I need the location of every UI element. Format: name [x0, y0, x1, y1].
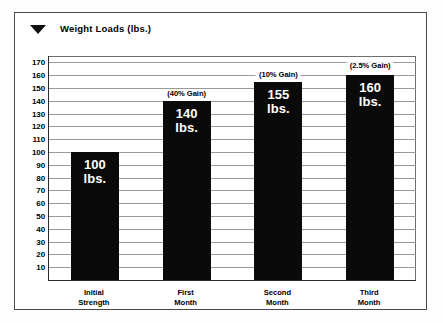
- bar: 155lbs.: [254, 82, 302, 280]
- bar-value-number: 100: [84, 157, 106, 172]
- y-axis-tick-label: 110: [32, 136, 45, 144]
- x-label-line-1: Initial: [84, 288, 104, 297]
- bar-value-label: 160lbs.: [346, 81, 394, 109]
- y-axis-tick-label: 160: [32, 72, 45, 80]
- bar-value-unit: lbs.: [346, 95, 394, 109]
- y-axis-tick-label: 130: [32, 111, 45, 119]
- down-triangle-marker-icon: [30, 25, 47, 34]
- plot-inner: 1701601501401301201101009080706050403020…: [49, 56, 416, 280]
- plot-top-border: [49, 56, 416, 57]
- gain-annotation: (2.5% Gain): [347, 62, 394, 70]
- x-label-line-2: Month: [264, 298, 291, 308]
- gain-annotation: (40% Gain): [164, 91, 209, 99]
- y-axis-tick-label: 80: [36, 175, 45, 183]
- bar-value-label: 100lbs.: [71, 158, 119, 186]
- bar: 140lbs.: [163, 101, 211, 280]
- legend: Weight Loads (lbs.): [30, 21, 151, 37]
- gain-annotation: (10% Gain): [256, 71, 301, 79]
- x-label-line-1: Second: [264, 288, 291, 297]
- bar: 100lbs.: [71, 152, 119, 280]
- bar-value-number: 160: [359, 80, 381, 95]
- y-axis-tick-label: 150: [32, 85, 45, 93]
- x-label-line-2: Strength: [78, 298, 109, 308]
- x-label-line-2: Month: [358, 298, 381, 308]
- x-axis-category-label: ThirdMonth: [358, 288, 381, 307]
- y-axis-tick-label: 170: [32, 59, 45, 67]
- x-axis-category-label: SecondMonth: [264, 288, 291, 307]
- plot-right-border: [415, 56, 416, 280]
- x-label-line-2: Month: [174, 298, 197, 308]
- plot-area: 1701601501401301201101009080706050403020…: [48, 56, 416, 281]
- y-axis-tick-label: 50: [36, 213, 45, 221]
- bar: 160lbs.: [346, 75, 394, 280]
- y-axis-tick-label: 100: [32, 149, 45, 157]
- bar-value-unit: lbs.: [254, 102, 302, 116]
- chart-page: Weight Loads (lbs.) 17016015014013012011…: [0, 0, 443, 323]
- bar-value-label: 155lbs.: [254, 88, 302, 116]
- bar-value-unit: lbs.: [71, 172, 119, 186]
- legend-label: Weight Loads (lbs.): [60, 24, 151, 34]
- x-axis-category-label: FirstMonth: [174, 288, 197, 307]
- y-axis-tick-label: 90: [36, 162, 45, 170]
- y-axis-tick-label: 20: [36, 251, 45, 259]
- y-axis-tick-label: 70: [36, 187, 45, 195]
- y-axis-tick-label: 60: [36, 200, 45, 208]
- bar-value-label: 140lbs.: [163, 107, 211, 135]
- x-label-line-1: First: [177, 288, 193, 297]
- y-axis-tick-label: 140: [32, 98, 45, 106]
- y-axis-tick-label: 40: [36, 226, 45, 234]
- x-axis-category-label: InitialStrength: [78, 288, 109, 307]
- bar-value-unit: lbs.: [163, 121, 211, 135]
- y-axis-tick-label: 120: [32, 123, 45, 131]
- y-axis-tick-label: 30: [36, 239, 45, 247]
- bar-value-number: 155: [267, 87, 289, 102]
- x-label-line-1: Third: [360, 288, 379, 297]
- y-axis-tick-label: 10: [36, 264, 45, 272]
- bar-value-number: 140: [176, 106, 198, 121]
